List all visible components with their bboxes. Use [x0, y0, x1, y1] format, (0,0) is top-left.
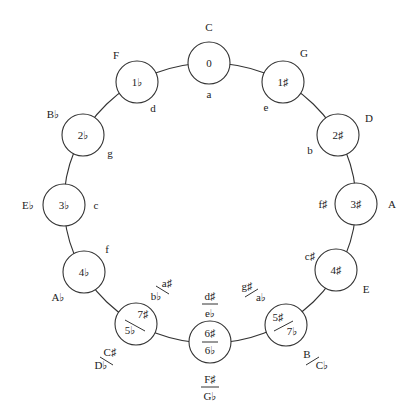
node-b-major: 5♯ 7♭ B C♭ g♯ a♭	[242, 280, 329, 371]
major-key-label: E♭	[22, 199, 34, 211]
major-key-label: B♭	[47, 108, 60, 120]
node-e-major: 4♯ E c♯	[305, 249, 370, 295]
minor-key-label: c♯	[305, 250, 316, 262]
minor-key-bottom-label: a♭	[256, 291, 266, 303]
major-key-bottom-label: C♭	[316, 359, 329, 371]
major-key-bottom-label: D♭	[94, 359, 107, 371]
node-c-major: 0 C a	[188, 21, 230, 100]
signature-bottom-label: 6♭	[205, 344, 216, 356]
signature-label: 3♯	[351, 198, 363, 210]
node-f-sharp-major: 6♯ 6♭ F♯ G♭ d♯ e♭	[189, 290, 231, 402]
major-key-top-label: B	[303, 348, 310, 360]
signature-label: 2♯	[333, 129, 345, 141]
node-c-sharp-major: 7♯ 5♭ C♯ D♭ a♯ b♭	[94, 277, 172, 371]
major-key-label: A	[388, 198, 396, 210]
minor-key-top-label: d♯	[205, 290, 217, 302]
minor-key-label: e	[264, 101, 269, 113]
node-a-flat-major: 4♭ A♭ f	[51, 243, 109, 303]
minor-key-bottom-label: e♭	[205, 307, 215, 319]
minor-key-label: f	[105, 243, 109, 255]
minor-key-label: g	[107, 147, 113, 159]
minor-key-label: d	[150, 102, 156, 114]
minor-key-label: f♯	[318, 198, 328, 210]
key-circle	[115, 303, 157, 345]
minor-key-label: c	[94, 199, 99, 211]
minor-key-top-label: a♯	[162, 277, 173, 289]
signature-top-label: 5♯	[273, 311, 285, 323]
major-key-top-label: C♯	[104, 346, 117, 358]
major-key-label: C	[205, 21, 212, 33]
signature-label: 2♭	[78, 129, 89, 141]
major-key-label: G	[300, 47, 308, 59]
node-a-major: 3♯ A f♯	[318, 183, 396, 225]
major-key-top-label: F♯	[204, 373, 216, 385]
node-g-major: 1♯ G e	[262, 47, 308, 113]
signature-label: 4♭	[79, 266, 90, 278]
node-e-flat-major: 3♭ E♭ c	[22, 184, 99, 226]
signature-top-label: 7♯	[138, 308, 150, 320]
signature-label: 1♭	[132, 76, 143, 88]
major-key-label: A♭	[51, 291, 64, 303]
signature-label: 1♯	[278, 76, 290, 88]
signature-label: 3♭	[59, 199, 70, 211]
minor-key-top-label: g♯	[242, 280, 254, 292]
node-b-flat-major: 2♭ B♭ g	[47, 108, 114, 159]
node-f-major: 1♭ F d	[113, 49, 158, 114]
signature-label: 4♯	[331, 264, 343, 276]
major-key-bottom-label: G♭	[203, 390, 216, 402]
key-nodes: 0 C a 1♯ G e 2♯ D b 3♯ A	[22, 21, 396, 402]
major-key-label: F	[113, 49, 119, 61]
signature-bottom-label: 5♭	[125, 324, 136, 336]
signature-top-label: 6♯	[205, 327, 217, 339]
node-d-major: 2♯ D b	[307, 112, 373, 156]
circle-of-fifths-diagram: 0 C a 1♯ G e 2♯ D b 3♯ A	[0, 0, 413, 417]
minor-key-bottom-label: b♭	[151, 290, 162, 302]
major-key-label: E	[363, 283, 370, 295]
diagram-canvas: 0 C a 1♯ G e 2♯ D b 3♯ A	[0, 0, 413, 417]
minor-key-label: a	[207, 88, 212, 100]
signature-label: 0	[206, 57, 212, 69]
signature-bottom-label: 7♭	[287, 325, 298, 337]
minor-key-label: b	[307, 144, 313, 156]
major-key-label: D	[365, 112, 373, 124]
